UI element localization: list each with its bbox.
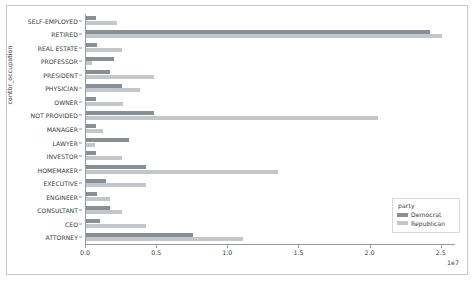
y-tick-mark — [79, 142, 82, 143]
x-axis-spine — [85, 244, 455, 245]
chart-figure: contbr_occupation SELF-EMPLOYEDRETIREDRE… — [0, 0, 475, 282]
y-tick-label: PHYSICIAN — [45, 85, 78, 92]
bar — [86, 138, 129, 142]
bar — [86, 210, 122, 214]
y-tick-label: CONSULTANT — [37, 207, 78, 214]
x-tick-label: 2.0 — [365, 249, 375, 256]
bar — [86, 192, 97, 196]
legend-title: party — [398, 202, 455, 209]
y-tick-mark — [79, 88, 82, 89]
legend-label: Democrat — [411, 211, 442, 218]
y-tick-mark — [79, 74, 82, 75]
bar — [86, 88, 140, 92]
y-tick-mark — [79, 210, 82, 211]
bar — [86, 102, 123, 106]
y-axis-tick-labels: SELF-EMPLOYEDRETIREDREAL ESTATEPROFESSOR… — [10, 14, 82, 244]
y-tick-label: RETIRED — [51, 31, 78, 38]
y-tick-mark — [79, 169, 82, 170]
bar — [86, 111, 154, 115]
chart-legend: party DemocratRepublican — [392, 198, 460, 233]
x-tick-label: 2.5 — [436, 249, 446, 256]
y-tick-label: CEO — [65, 220, 78, 227]
bar — [86, 124, 96, 128]
legend-swatch — [397, 221, 408, 225]
legend-swatch — [397, 213, 408, 217]
bar — [86, 97, 96, 101]
bar — [86, 16, 96, 20]
legend-label: Republican — [411, 220, 445, 227]
x-tick-label: 1.0 — [222, 249, 232, 256]
bar — [86, 43, 97, 47]
x-tick-mark — [370, 245, 371, 248]
y-tick-mark — [79, 61, 82, 62]
y-tick-label: PROFESSOR — [41, 58, 78, 65]
y-tick-label: SELF-EMPLOYED — [28, 17, 78, 24]
y-tick-label: ATTORNEY — [45, 234, 78, 241]
x-tick-mark — [298, 245, 299, 248]
bar — [86, 197, 110, 201]
y-tick-label: MANAGER — [47, 126, 78, 133]
y-tick-label: HOMEMAKER — [38, 166, 78, 173]
y-tick-mark — [79, 156, 82, 157]
y-tick-mark — [79, 223, 82, 224]
bar — [86, 219, 100, 223]
bar — [86, 129, 103, 133]
x-tick-label: 0.0 — [80, 249, 90, 256]
x-tick-label: 0.5 — [151, 249, 161, 256]
bar — [86, 21, 117, 25]
legend-entries: DemocratRepublican — [397, 211, 455, 227]
bar — [86, 70, 110, 74]
bar — [86, 61, 92, 65]
x-tick-mark — [156, 245, 157, 248]
bar — [86, 206, 110, 210]
bar — [86, 170, 278, 174]
legend-item[interactable]: Democrat — [397, 211, 455, 218]
y-tick-mark — [79, 196, 82, 197]
y-tick-label: PRESIDENT — [43, 71, 78, 78]
bar — [86, 48, 122, 52]
bar — [86, 84, 122, 88]
y-tick-mark — [79, 101, 82, 102]
x-tick-mark — [227, 245, 228, 248]
y-tick-mark — [79, 47, 82, 48]
y-tick-label: EXECUTIVE — [43, 180, 78, 187]
x-tick-label: 1.5 — [293, 249, 303, 256]
y-tick-mark — [79, 183, 82, 184]
bar — [86, 143, 95, 147]
bar — [86, 30, 430, 34]
bar — [86, 179, 106, 183]
bar — [86, 34, 442, 38]
y-tick-label: OWNER — [54, 98, 78, 105]
y-tick-mark — [79, 129, 82, 130]
bar — [86, 233, 193, 237]
x-axis-offset-text: 1e7 — [447, 259, 459, 266]
y-tick-label: LAWYER — [52, 139, 78, 146]
bar — [86, 183, 146, 187]
x-tick-mark — [85, 245, 86, 248]
bar — [86, 116, 378, 120]
bar — [86, 237, 243, 241]
y-tick-label: NOT PROVIDED — [31, 112, 78, 119]
x-tick-mark — [441, 245, 442, 248]
bar — [86, 224, 146, 228]
bar — [86, 75, 154, 79]
y-tick-label: INVESTOR — [47, 153, 78, 160]
bar — [86, 165, 146, 169]
bar — [86, 156, 122, 160]
y-tick-mark — [79, 34, 82, 35]
y-tick-mark — [79, 237, 82, 238]
y-tick-mark — [79, 115, 82, 116]
legend-item[interactable]: Republican — [397, 220, 455, 227]
bar — [86, 151, 96, 155]
y-tick-mark — [79, 20, 82, 21]
bar — [86, 57, 114, 61]
y-tick-label: ENGINEER — [46, 193, 78, 200]
y-tick-label: REAL ESTATE — [38, 44, 78, 51]
